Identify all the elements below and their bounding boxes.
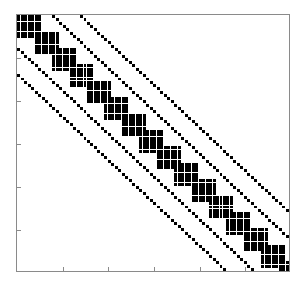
matrix-nonzero-marker xyxy=(192,199,195,202)
matrix-nonzero-marker xyxy=(56,41,59,44)
matrix-nonzero-marker xyxy=(108,107,111,110)
matrix-nonzero-marker xyxy=(153,176,156,179)
matrix-nonzero-marker xyxy=(171,192,174,195)
matrix-nonzero-marker xyxy=(66,61,69,64)
matrix-nonzero-marker xyxy=(104,130,107,133)
matrix-nonzero-marker xyxy=(94,100,97,103)
matrix-nonzero-marker xyxy=(31,25,34,28)
x-axis-tick xyxy=(63,267,64,271)
matrix-nonzero-marker xyxy=(174,169,177,172)
matrix-nonzero-marker xyxy=(202,130,205,133)
matrix-nonzero-marker xyxy=(195,196,198,199)
matrix-nonzero-marker xyxy=(35,22,38,25)
matrix-nonzero-marker xyxy=(213,202,216,205)
matrix-nonzero-marker xyxy=(279,268,282,271)
matrix-nonzero-marker xyxy=(35,28,38,31)
y-axis-tick xyxy=(17,101,21,102)
matrix-nonzero-marker xyxy=(45,74,48,77)
matrix-nonzero-marker xyxy=(132,130,135,133)
matrix-nonzero-marker xyxy=(216,206,219,209)
matrix-nonzero-marker xyxy=(122,173,125,176)
matrix-nonzero-marker xyxy=(202,156,205,159)
matrix-nonzero-marker xyxy=(223,199,226,202)
matrix-nonzero-marker xyxy=(192,212,195,215)
matrix-nonzero-marker xyxy=(80,15,83,18)
matrix-nonzero-marker xyxy=(268,261,271,264)
matrix-nonzero-marker xyxy=(143,133,146,136)
matrix-nonzero-marker xyxy=(230,209,233,212)
matrix-nonzero-marker xyxy=(56,55,59,58)
matrix-nonzero-marker xyxy=(56,51,59,54)
matrix-nonzero-marker xyxy=(206,160,209,163)
matrix-nonzero-marker xyxy=(52,107,55,110)
matrix-nonzero-marker xyxy=(139,114,142,117)
matrix-nonzero-marker xyxy=(73,71,76,74)
matrix-nonzero-marker xyxy=(150,173,153,176)
matrix-nonzero-marker xyxy=(213,215,216,218)
matrix-nonzero-marker xyxy=(38,32,41,35)
matrix-nonzero-marker xyxy=(94,84,97,87)
matrix-nonzero-marker xyxy=(282,265,285,268)
matrix-nonzero-marker xyxy=(192,179,195,182)
matrix-nonzero-marker xyxy=(195,215,198,218)
matrix-nonzero-marker xyxy=(77,84,80,87)
matrix-nonzero-marker xyxy=(35,32,38,35)
matrix-nonzero-marker xyxy=(206,186,209,189)
matrix-nonzero-marker xyxy=(118,143,121,146)
matrix-nonzero-marker xyxy=(265,238,268,241)
matrix-nonzero-marker xyxy=(178,150,181,153)
matrix-nonzero-marker xyxy=(125,123,128,126)
matrix-nonzero-marker xyxy=(73,100,76,103)
matrix-nonzero-marker xyxy=(143,74,146,77)
matrix-nonzero-marker xyxy=(143,123,146,126)
matrix-nonzero-marker xyxy=(226,196,229,199)
matrix-nonzero-marker xyxy=(90,68,93,71)
matrix-nonzero-marker xyxy=(108,94,111,97)
matrix-nonzero-marker xyxy=(268,245,271,248)
matrix-nonzero-marker xyxy=(17,28,20,31)
matrix-nonzero-marker xyxy=(282,255,285,258)
matrix-nonzero-marker xyxy=(139,97,142,100)
matrix-nonzero-marker xyxy=(97,97,100,100)
matrix-nonzero-marker xyxy=(101,100,104,103)
matrix-nonzero-marker xyxy=(178,133,181,136)
matrix-nonzero-marker xyxy=(185,176,188,179)
matrix-nonzero-marker xyxy=(216,199,219,202)
matrix-nonzero-marker xyxy=(174,130,177,133)
matrix-nonzero-marker xyxy=(240,232,243,235)
matrix-nonzero-marker xyxy=(122,146,125,149)
matrix-nonzero-marker xyxy=(265,242,268,245)
matrix-nonzero-marker xyxy=(220,215,223,218)
matrix-nonzero-marker xyxy=(73,81,76,84)
matrix-nonzero-marker xyxy=(111,137,114,140)
matrix-nonzero-marker xyxy=(143,127,146,130)
matrix-nonzero-marker xyxy=(181,179,184,182)
matrix-nonzero-marker xyxy=(153,202,156,205)
matrix-nonzero-marker xyxy=(63,58,66,61)
matrix-nonzero-marker xyxy=(223,196,226,199)
matrix-nonzero-marker xyxy=(174,173,177,176)
matrix-nonzero-marker xyxy=(129,117,132,120)
matrix-nonzero-marker xyxy=(150,130,153,133)
matrix-nonzero-marker xyxy=(17,18,20,21)
matrix-nonzero-marker xyxy=(21,32,24,35)
matrix-nonzero-marker xyxy=(150,199,153,202)
matrix-nonzero-marker xyxy=(146,78,149,81)
matrix-nonzero-marker xyxy=(42,35,45,38)
matrix-nonzero-marker xyxy=(28,35,31,38)
matrix-nonzero-marker xyxy=(52,55,55,58)
matrix-nonzero-marker xyxy=(223,209,226,212)
matrix-nonzero-marker xyxy=(28,58,31,61)
matrix-nonzero-marker xyxy=(261,245,264,248)
matrix-nonzero-marker xyxy=(167,156,170,159)
matrix-nonzero-marker xyxy=(171,153,174,156)
matrix-nonzero-marker xyxy=(63,48,66,51)
matrix-nonzero-marker xyxy=(265,232,268,235)
matrix-nonzero-marker xyxy=(261,186,264,189)
matrix-nonzero-marker xyxy=(143,130,146,133)
matrix-nonzero-marker xyxy=(150,150,153,153)
matrix-nonzero-marker xyxy=(226,219,229,222)
matrix-nonzero-marker xyxy=(153,130,156,133)
matrix-nonzero-marker xyxy=(202,196,205,199)
matrix-nonzero-marker xyxy=(272,258,275,261)
